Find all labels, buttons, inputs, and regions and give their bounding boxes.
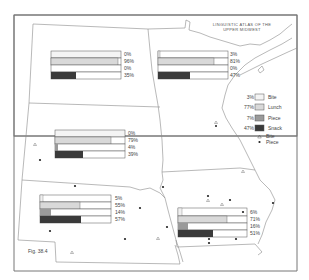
legend-swatch-piece: [255, 115, 264, 121]
legend-label-snack: Snack: [268, 125, 282, 131]
legend-label-lunch: Lunch: [268, 104, 282, 110]
legend-pct-bite: 3%: [247, 94, 255, 100]
mn-bite-pct: 3%: [230, 51, 238, 57]
legend-label-bite: Bite: [268, 94, 277, 100]
bar-group-nebraska: 5% 55% 14% 57%: [40, 195, 126, 223]
dot-icon: [258, 141, 260, 143]
nd-piece-pct: 0%: [124, 65, 132, 71]
legend-pct-snack: 47%: [244, 125, 255, 131]
legend-pct-lunch: 77%: [244, 104, 255, 110]
mn-snack-pct: 47%: [230, 72, 241, 78]
ia-snack-pct: 51%: [250, 230, 261, 236]
sd-snack-pct: 39%: [128, 151, 139, 157]
legend: 3% 77% 7% 47% Bite Lunch Piece Snack Bit…: [244, 94, 282, 145]
legend-swatch-snack: [255, 125, 264, 131]
ia-lunch-pct: 71%: [250, 216, 261, 222]
sd-lunch-pct: 79%: [128, 137, 139, 143]
atlas-title-line2: UPPER MIDWEST: [223, 27, 261, 32]
mn-lunch-pct: 81%: [230, 58, 241, 64]
nd-lunch-pct: 96%: [124, 58, 135, 64]
bar-group-minnesota: 3% 81% 0% 47%: [158, 51, 241, 79]
ne-snack-pct: 57%: [115, 216, 126, 222]
figure-label: Fig. 38.4: [28, 248, 48, 254]
legend-pct-piece: 7%: [247, 115, 255, 121]
bar-group-south-dakota: 0% 79% 4% 39%: [55, 130, 139, 158]
ne-lunch-pct: 55%: [115, 202, 126, 208]
legend-swatch-bite: [255, 94, 264, 100]
nd-snack-pct: 35%: [124, 72, 135, 78]
bar-group-iowa: 6% 71% 16% 51%: [178, 208, 261, 237]
legend-swatch-lunch: [255, 104, 264, 110]
bar-group-north-dakota: 0% 96% 0% 35%: [51, 51, 135, 79]
ne-bite-pct: 5%: [115, 195, 123, 201]
legend-label-piece: Piece: [268, 115, 281, 121]
ne-piece-pct: 14%: [115, 209, 126, 215]
ia-piece-pct: 16%: [250, 223, 261, 229]
sd-piece-pct: 4%: [128, 144, 136, 150]
mn-piece-pct: 0%: [230, 65, 238, 71]
nd-bite-pct: 0%: [124, 51, 132, 57]
ia-bite-pct: 6%: [250, 209, 258, 215]
legend-symbol-piece: Piece: [266, 139, 279, 145]
sd-bite-pct: 0%: [128, 130, 136, 136]
triangle-icon: [258, 135, 262, 138]
map-lines: LINGUISTIC ATLAS OF THE UPPER MIDWEST Fi…: [0, 0, 309, 280]
